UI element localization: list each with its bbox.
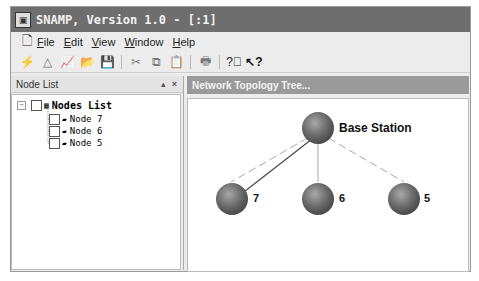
menu-edit-label: dit <box>71 36 83 48</box>
menu-view-label: iew <box>99 36 116 48</box>
node-5-circle[interactable] <box>388 183 420 215</box>
node-5-checkbox[interactable] <box>49 138 60 149</box>
menu-edit-mnemonic: E <box>64 36 71 48</box>
menu-view-mnemonic: V <box>92 36 99 48</box>
menu-window-mnemonic: W <box>124 36 134 48</box>
toolbar-separator <box>121 55 122 69</box>
menu-help[interactable]: Help <box>173 36 196 48</box>
list-icon: ▦ <box>44 101 49 110</box>
topology-canvas[interactable]: Base Station 7 6 5 <box>187 98 469 272</box>
root-checkbox[interactable] <box>31 100 42 111</box>
print-icon[interactable]: 🖶 <box>195 52 215 73</box>
context-help-icon[interactable]: ↖? <box>244 55 264 69</box>
menu-view[interactable]: View <box>92 36 116 48</box>
document-icon: 🗋 <box>17 31 37 53</box>
topology-graph <box>188 99 468 271</box>
node-7-circle[interactable] <box>216 183 248 215</box>
toolbar-separator <box>190 55 191 69</box>
node-6-topology-label: 6 <box>339 192 345 204</box>
topology-icon[interactable]: △ <box>37 55 57 69</box>
menu-edit[interactable]: Edit <box>64 36 83 48</box>
node-6-checkbox[interactable] <box>49 126 60 137</box>
node-5-topology-label: 5 <box>424 192 430 204</box>
tree-item-node-6[interactable]: ▰ Node 6 <box>49 125 102 137</box>
help-icon[interactable]: ?⃞ <box>224 55 244 69</box>
node-5-label: Node 5 <box>70 138 103 148</box>
menu-file-label: ile <box>44 36 55 48</box>
menu-file[interactable]: File <box>37 36 55 48</box>
node-7-topology-label: 7 <box>253 192 259 204</box>
toolbar: ⚡ △ 📈 📂 💾 ✂ ⧉ 📋 🖶 ?⃞ ↖? <box>11 52 470 73</box>
node-tree: − ▦ Nodes List ▰ Node 7 ▰ Node 6 ▰ Node … <box>11 94 181 270</box>
menu-window-label: indow <box>135 36 164 48</box>
window-title: SNAMP, Version 1.0 - [:1] <box>36 13 217 27</box>
tree-item-node-7[interactable]: ▰ Node 7 <box>49 113 102 125</box>
menu-bar: 🗋 File Edit View Window Help <box>11 32 470 52</box>
app-window: ▣ SNAMP, Version 1.0 - [:1] 🗋 File Edit … <box>10 6 471 272</box>
chart-icon[interactable]: 📈 <box>57 55 77 69</box>
tree-item-node-5[interactable]: ▰ Node 5 <box>49 137 102 149</box>
base-station-node[interactable] <box>302 112 334 144</box>
app-icon: ▣ <box>15 12 31 28</box>
node-6-circle[interactable] <box>302 183 334 215</box>
sensor-node-icon: ▰ <box>62 127 67 136</box>
toolbar-separator <box>219 55 220 69</box>
node-7-label: Node 7 <box>70 114 103 124</box>
sensor-node-icon: ▰ <box>62 115 67 124</box>
copy-icon[interactable]: ⧉ <box>146 55 166 69</box>
menu-file-mnemonic: F <box>37 36 44 48</box>
base-station-label: Base Station <box>339 121 412 135</box>
menu-help-label: elp <box>180 36 195 48</box>
node-6-label: Node 6 <box>70 126 103 136</box>
flash-icon[interactable]: ⚡ <box>17 55 37 69</box>
node-7-checkbox[interactable] <box>49 114 60 125</box>
title-bar[interactable]: ▣ SNAMP, Version 1.0 - [:1] <box>11 7 470 32</box>
menu-window[interactable]: Window <box>124 36 163 48</box>
cut-icon[interactable]: ✂ <box>126 55 146 69</box>
sensor-node-icon: ▰ <box>62 139 67 148</box>
node-list-panel: Node List ▴ × − ▦ Nodes List ▰ Node 7 <box>11 76 184 270</box>
node-list-header: Node List ▴ × <box>11 76 183 93</box>
collapse-icon[interactable]: − <box>17 101 26 110</box>
close-icon[interactable]: × <box>172 79 177 89</box>
root-label: Nodes List <box>52 100 112 111</box>
pin-icon[interactable]: ▴ <box>161 79 166 89</box>
save-icon[interactable]: 💾 <box>97 55 117 69</box>
open-folder-icon[interactable]: 📂 <box>77 55 97 69</box>
tree-root[interactable]: − ▦ Nodes List <box>17 99 112 111</box>
topology-panel: Network Topology Tree... <box>187 76 469 270</box>
node-list-title: Node List <box>16 79 58 90</box>
paste-icon[interactable]: 📋 <box>166 55 186 69</box>
topology-header: Network Topology Tree... <box>187 76 469 94</box>
